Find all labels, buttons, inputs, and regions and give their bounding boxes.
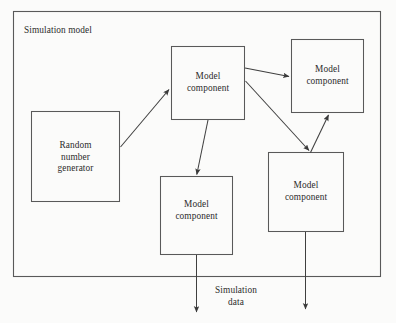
node-model-component-top-center[interactable] [171, 46, 245, 120]
edge-top-center-to-bottom-center [197, 120, 208, 175]
diagram-canvas: Simulation model Random number generator… [0, 0, 396, 323]
edge-top-center-to-top-right [245, 68, 289, 77]
edge-bottom-right-to-top-right [311, 115, 329, 153]
simulation-data-label: Simulation data [205, 285, 267, 308]
node-model-component-bottom-center[interactable] [160, 176, 233, 255]
outer-container-title: Simulation model [24, 25, 92, 37]
node-model-component-top-right[interactable] [291, 39, 364, 113]
node-model-component-bottom-right[interactable] [268, 152, 344, 232]
node-random-number-generator[interactable] [31, 111, 120, 202]
edge-rng-to-top-center [121, 90, 170, 148]
